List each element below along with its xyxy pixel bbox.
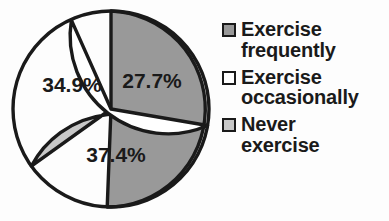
legend-item-never-exercise[interactable]: Never exercise bbox=[222, 114, 387, 156]
pie-slice-exercise-frequently[interactable] bbox=[107, 11, 205, 207]
pie-label-exercise-occasionally: 37.4% bbox=[86, 143, 146, 166]
pie-chart-figure: 27.7% 34.9% 37.4% Exercise frequently Ex… bbox=[0, 0, 389, 221]
legend-swatch-icon-never-exercise bbox=[222, 118, 236, 132]
legend-label-exercise-occasionally: Exercise occasionally bbox=[241, 67, 359, 109]
legend-swatch-icon-exercise-frequently bbox=[222, 23, 236, 37]
chart-legend: Exercise frequently Exercise occasionall… bbox=[222, 19, 387, 156]
legend-label-never-exercise: Never exercise bbox=[241, 114, 319, 156]
pie-chart-plot-area: 27.7% 34.9% 37.4% bbox=[9, 8, 214, 210]
pie-label-exercise-frequently: 27.7% bbox=[122, 69, 182, 92]
legend-label-exercise-frequently: Exercise frequently bbox=[241, 19, 336, 61]
legend-item-exercise-occasionally[interactable]: Exercise occasionally bbox=[222, 67, 387, 109]
pie-chart-svg: 27.7% 34.9% 37.4% bbox=[9, 8, 214, 210]
pie-label-never-exercise: 34.9% bbox=[42, 73, 102, 96]
legend-item-exercise-frequently[interactable]: Exercise frequently bbox=[222, 19, 387, 61]
legend-swatch-icon-exercise-occasionally bbox=[222, 71, 236, 85]
